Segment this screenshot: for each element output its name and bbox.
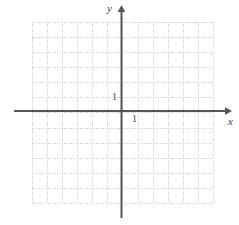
axes-layer [0,0,239,225]
y-axis-tick-label-one: 1 [112,92,117,102]
x-axis-label: x [228,116,233,127]
coordinate-plane-figure: y x 1 1 [0,0,239,225]
y-axis-label: y [107,3,112,14]
x-axis-arrowhead [225,107,232,115]
y-axis-arrowhead [118,5,126,12]
x-axis-tick-label-one: 1 [132,114,137,124]
